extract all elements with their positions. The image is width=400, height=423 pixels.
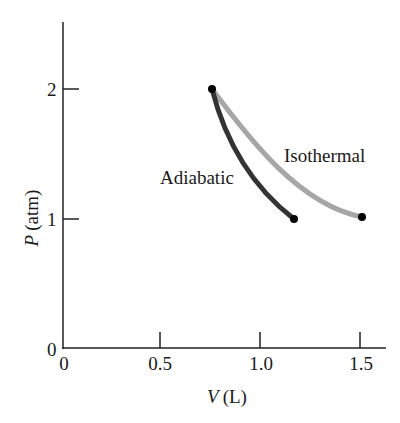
x-tick-label-0.5: 0.5 [148,353,172,374]
isothermal-end-point [358,213,366,221]
y-axis-label: P(atm) [21,190,43,248]
isothermal-label: Isothermal [284,145,365,166]
y-tick-label-0: 0 [47,339,57,360]
start-point [208,85,216,93]
pv-diagram-chart: 2 1 0 0 0.5 1.0 1.5 V(L) P(atm) Adiabati… [0,0,400,423]
y-tick-label-2: 2 [47,79,57,100]
y-tick-label-1: 1 [47,209,57,230]
x-tick-label-1.0: 1.0 [249,353,273,374]
adiabatic-end-point [290,215,298,223]
x-tick-label-0: 0 [59,353,69,374]
adiabatic-label: Adiabatic [160,167,234,188]
x-axis-label: V(L) [207,386,247,408]
x-tick-label-1.5: 1.5 [349,353,373,374]
